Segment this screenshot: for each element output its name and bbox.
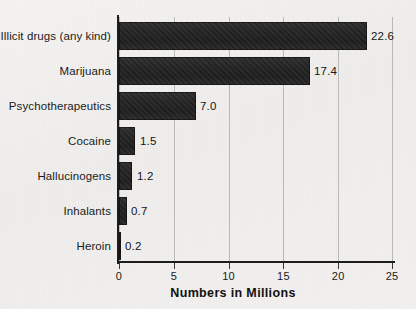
x-tick-20 xyxy=(338,263,339,269)
category-label-row: Hallucinogens xyxy=(0,162,111,190)
bar-value-label: 17.4 xyxy=(314,65,337,77)
category-label-row: Cocaine xyxy=(0,127,111,155)
bar-heroin xyxy=(119,232,121,260)
plot-area: 22.6 17.4 7.0 1.5 1.2 0.7 0.2 xyxy=(119,17,393,262)
x-tick-label: 25 xyxy=(386,270,399,282)
x-tick-label: 0 xyxy=(116,270,122,282)
bar-value-label: 1.2 xyxy=(137,170,154,182)
x-tick-25 xyxy=(392,263,393,269)
x-tick-label: 10 xyxy=(222,270,235,282)
x-tick-0 xyxy=(119,263,120,269)
bar-chart: 22.6 17.4 7.0 1.5 1.2 0.7 0.2 xyxy=(0,0,416,309)
x-axis-title-text: Numbers in Millions xyxy=(170,286,295,300)
bar-marijuana xyxy=(119,57,310,85)
y-axis-line xyxy=(117,15,119,264)
x-tick-label: 15 xyxy=(277,270,290,282)
bar-cocaine xyxy=(119,127,135,155)
category-label: Illicit drugs (any kind) xyxy=(1,30,111,42)
category-label: Hallucinogens xyxy=(37,170,111,182)
bar-value-label: 22.6 xyxy=(371,30,394,42)
x-tick-label: 5 xyxy=(171,270,177,282)
bar-inhalants xyxy=(119,197,127,225)
category-label-row: Psychotherapeutics xyxy=(0,92,111,120)
bar-value-label: 1.5 xyxy=(140,135,157,147)
bar-row: 7.0 xyxy=(119,92,393,120)
category-label: Psychotherapeutics xyxy=(9,100,111,112)
bar-row: 0.7 xyxy=(119,197,393,225)
bar-psychotherapeutics xyxy=(119,92,196,120)
bar-value-label: 0.2 xyxy=(125,240,142,252)
bar-row: 1.5 xyxy=(119,127,393,155)
category-label-row: Heroin xyxy=(0,232,111,260)
category-label: Heroin xyxy=(77,240,111,252)
category-label: Marijuana xyxy=(60,65,111,77)
bar-row: 17.4 xyxy=(119,57,393,85)
x-axis-line xyxy=(117,261,395,263)
x-tick-10 xyxy=(229,263,230,269)
x-tick-15 xyxy=(283,263,284,269)
bar-row: 1.2 xyxy=(119,162,393,190)
bar-hallucinogens xyxy=(119,162,132,190)
x-tick-label: 20 xyxy=(332,270,345,282)
x-axis-title: Numbers in Millions xyxy=(0,286,416,300)
bar-illicit-drugs-any-kind xyxy=(119,22,367,50)
x-tick-5 xyxy=(174,263,175,269)
bar-value-label: 7.0 xyxy=(200,100,217,112)
bar-value-label: 0.7 xyxy=(131,205,148,217)
category-label-row: Marijuana xyxy=(0,57,111,85)
bar-row: 22.6 xyxy=(119,22,393,50)
bar-row: 0.2 xyxy=(119,232,393,260)
category-label: Inhalants xyxy=(63,205,111,217)
category-label-row: Inhalants xyxy=(0,197,111,225)
category-label: Cocaine xyxy=(68,135,111,147)
category-label-row: Illicit drugs (any kind) xyxy=(0,22,111,50)
